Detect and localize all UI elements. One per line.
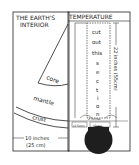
svg-text:c: c (96, 78, 99, 84)
svg-text:e: e (96, 69, 100, 75)
width-label-metric: (25 cm) (26, 142, 46, 148)
cutout-text: cut out this s e c t i o n (92, 29, 102, 117)
core-boundary (38, 83, 68, 86)
left-title-line1: THE EARTH'S (15, 14, 55, 21)
neck-arc-right (105, 115, 117, 118)
core-label: core (46, 73, 61, 84)
small-label-right: 2 inches (88, 117, 101, 121)
mantle-label: mantle (33, 94, 55, 106)
svg-text:cut: cut (92, 29, 102, 35)
small-label-left: (2.5cm) (73, 124, 85, 128)
svg-text:i: i (97, 95, 99, 101)
width-label: 10 inches (25, 135, 50, 141)
left-title-line2: INTERIOR (20, 21, 49, 28)
earth-interior-diagram: THE EARTH'S INTERIOR core mantle crust 1… (0, 0, 139, 165)
thermometer-bulb (85, 126, 113, 154)
left-panel-frame (13, 12, 69, 151)
temperature-title: TEMPERATURE (68, 13, 113, 20)
svg-text:t: t (96, 87, 99, 93)
svg-text:s: s (96, 60, 99, 66)
svg-text:o: o (96, 103, 100, 109)
svg-text:this: this (92, 50, 102, 56)
svg-text:out: out (92, 39, 102, 45)
height-label: 22 inches (55cm) (113, 47, 119, 91)
